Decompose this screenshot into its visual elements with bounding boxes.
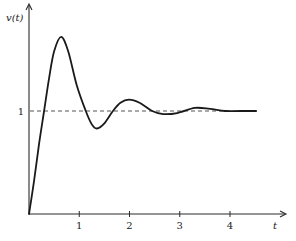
step-response-chart: 1234 1 t v(t): [0, 0, 296, 241]
x-tick-label: 4: [227, 220, 233, 231]
series-group: [29, 37, 256, 214]
y-axis-label: v(t): [6, 12, 24, 23]
x-tick-label: 1: [76, 220, 82, 231]
x-axis-label: t: [273, 220, 278, 231]
x-tick-label: 3: [177, 220, 183, 231]
y-ticks: 1: [18, 106, 24, 117]
x-tick-label: 2: [126, 220, 132, 231]
y-tick-label: 1: [18, 106, 24, 117]
series-line-vt: [29, 37, 256, 214]
